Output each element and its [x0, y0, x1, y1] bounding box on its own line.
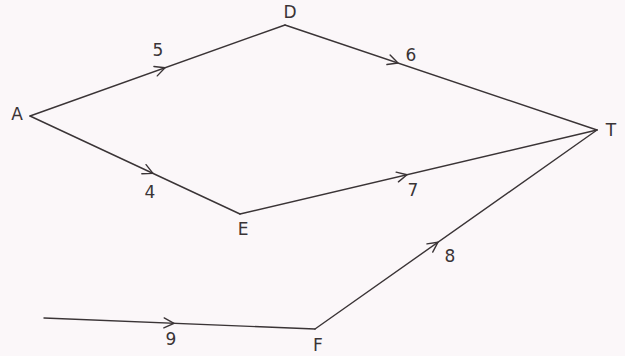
- edge-line-e-t: [240, 130, 597, 214]
- node-label-d: D: [283, 4, 296, 21]
- node-label-f: F: [313, 337, 323, 354]
- edge-weight-e-t: 7: [408, 182, 419, 199]
- edge-weight-a-e: 4: [145, 184, 156, 201]
- node-label-t: T: [606, 122, 616, 139]
- graph-edges-layer: [0, 0, 625, 356]
- edge-line-a-e: [30, 116, 240, 214]
- edge-line-f-t: [315, 130, 597, 329]
- edge-weight-in-f: 9: [166, 331, 177, 348]
- edge-line-in-f: [44, 318, 315, 329]
- network-diagram: A D E F T 5 6 4 7 8 9: [0, 0, 625, 356]
- node-label-e: E: [238, 221, 249, 238]
- edge-weight-f-t: 8: [445, 248, 456, 265]
- edge-weight-d-t: 6: [406, 47, 417, 64]
- edge-line-d-t: [285, 25, 597, 130]
- node-label-a: A: [11, 106, 23, 123]
- edge-weight-a-d: 5: [153, 42, 164, 59]
